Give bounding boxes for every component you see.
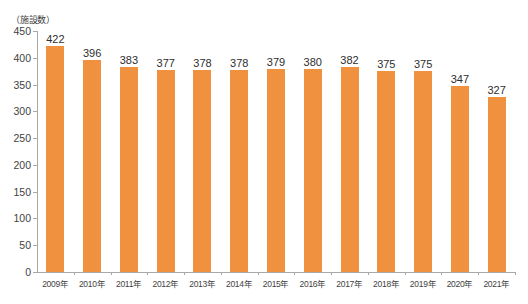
x-axis-category-label: 2017年 bbox=[331, 277, 368, 289]
x-axis-tick-mark bbox=[368, 272, 369, 275]
bar-item[interactable]: 382 bbox=[341, 67, 359, 272]
x-axis-category-label: 2012年 bbox=[147, 277, 184, 289]
bar-value-label: 396 bbox=[83, 48, 101, 59]
bar-value-label: 383 bbox=[120, 55, 138, 66]
y-axis-tick-label: 0 bbox=[25, 267, 31, 278]
y-axis-tick-label: 250 bbox=[13, 133, 31, 144]
x-axis-tick-mark bbox=[74, 272, 75, 275]
y-axis-tick-mark bbox=[33, 138, 37, 139]
y-axis-tick-label: 150 bbox=[13, 186, 31, 197]
y-axis-tick-label: 200 bbox=[13, 160, 31, 171]
bar[interactable] bbox=[304, 69, 322, 273]
y-axis-tick-mark bbox=[33, 192, 37, 193]
bar[interactable] bbox=[267, 69, 285, 272]
x-axis-tick-mark bbox=[258, 272, 259, 275]
bar-chart: （施設数） 050100150200250300350400450 422396… bbox=[0, 0, 528, 304]
bar-item[interactable]: 379 bbox=[267, 69, 285, 272]
plot-area: 050100150200250300350400450 422396383377… bbox=[37, 31, 515, 272]
bar-item[interactable]: 347 bbox=[451, 86, 469, 272]
y-axis-tick-label: 450 bbox=[13, 26, 31, 37]
y-axis-tick-mark bbox=[33, 245, 37, 246]
bar-value-label: 377 bbox=[157, 58, 175, 69]
y-axis-tick-label: 100 bbox=[13, 213, 31, 224]
x-axis-tick-mark bbox=[478, 272, 479, 275]
x-axis-category-label: 2014年 bbox=[221, 277, 258, 289]
bar-value-label: 382 bbox=[340, 55, 358, 66]
y-axis-tick-mark bbox=[33, 58, 37, 59]
bar[interactable] bbox=[451, 86, 469, 272]
bar-value-label: 378 bbox=[230, 58, 248, 69]
x-axis-tick-mark bbox=[294, 272, 295, 275]
y-axis-tick-label: 300 bbox=[13, 106, 31, 117]
x-axis-category-label: 2010年 bbox=[74, 277, 111, 289]
bar-value-label: 347 bbox=[451, 74, 469, 85]
bar[interactable] bbox=[488, 97, 506, 272]
bar-item[interactable]: 375 bbox=[414, 71, 432, 272]
x-axis-tick-mark bbox=[441, 272, 442, 275]
y-axis-tick-mark bbox=[33, 85, 37, 86]
x-axis-tick-mark bbox=[111, 272, 112, 275]
y-axis-tick-mark bbox=[33, 31, 37, 32]
bar-item[interactable]: 375 bbox=[377, 71, 395, 272]
bar-item[interactable]: 422 bbox=[46, 46, 64, 272]
x-axis-category-label: 2021年 bbox=[478, 277, 515, 289]
bar-item[interactable]: 377 bbox=[157, 70, 175, 272]
x-axis-tick-mark bbox=[147, 272, 148, 275]
bar-value-label: 378 bbox=[193, 58, 211, 69]
bar[interactable] bbox=[377, 71, 395, 272]
bar[interactable] bbox=[414, 71, 432, 272]
x-axis-category-label: 2009年 bbox=[37, 277, 74, 289]
bar[interactable] bbox=[230, 70, 248, 272]
x-axis-tick-mark bbox=[515, 272, 516, 275]
x-axis-category-label: 2020年 bbox=[441, 277, 478, 289]
x-axis-category-label: 2016年 bbox=[294, 277, 331, 289]
y-axis-tick-mark bbox=[33, 218, 37, 219]
bar-item[interactable]: 378 bbox=[193, 70, 211, 272]
x-axis-tick-mark bbox=[405, 272, 406, 275]
x-axis-tick-mark bbox=[221, 272, 222, 275]
bar-value-label: 422 bbox=[46, 34, 64, 45]
x-axis-category-label: 2015年 bbox=[258, 277, 295, 289]
bar-item[interactable]: 383 bbox=[120, 67, 138, 272]
bar-value-label: 379 bbox=[267, 57, 285, 68]
bar[interactable] bbox=[83, 60, 101, 272]
bar-value-label: 375 bbox=[377, 59, 395, 70]
x-axis-category-label: 2018年 bbox=[368, 277, 405, 289]
x-axis-category-label: 2013年 bbox=[184, 277, 221, 289]
bar[interactable] bbox=[120, 67, 138, 272]
y-axis-tick-mark bbox=[33, 272, 37, 273]
bar-item[interactable]: 380 bbox=[304, 69, 322, 273]
bar[interactable] bbox=[46, 46, 64, 272]
y-axis-tick-label: 350 bbox=[13, 79, 31, 90]
y-axis-tick-label: 50 bbox=[19, 240, 31, 251]
y-axis-tick-mark bbox=[33, 165, 37, 166]
bar[interactable] bbox=[193, 70, 211, 272]
y-axis-tick-mark bbox=[33, 111, 37, 112]
bar-item[interactable]: 396 bbox=[83, 60, 101, 272]
y-axis-tick-label: 400 bbox=[13, 53, 31, 64]
bar-value-label: 375 bbox=[414, 59, 432, 70]
bar[interactable] bbox=[157, 70, 175, 272]
bar-item[interactable]: 327 bbox=[488, 97, 506, 272]
bar[interactable] bbox=[341, 67, 359, 272]
bar-value-label: 327 bbox=[487, 85, 505, 96]
x-axis-line bbox=[37, 272, 515, 273]
bar-value-label: 380 bbox=[304, 57, 322, 68]
x-axis-category-label: 2011年 bbox=[111, 277, 148, 289]
x-axis-tick-mark bbox=[184, 272, 185, 275]
x-axis-tick-mark bbox=[331, 272, 332, 275]
x-axis-category-label: 2019年 bbox=[405, 277, 442, 289]
bar-item[interactable]: 378 bbox=[230, 70, 248, 272]
